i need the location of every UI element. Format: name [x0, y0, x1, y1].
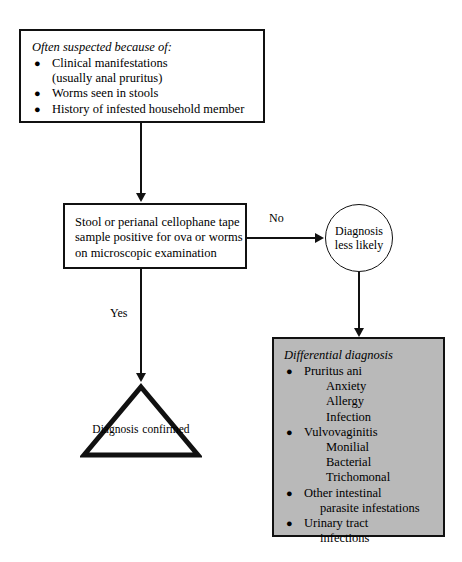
flowchart-canvas: Often suspected because of: ● Clinical m… — [0, 0, 462, 562]
list-item: ● Worms seen in stools — [32, 86, 253, 101]
connector-test-to-triangle — [140, 269, 142, 373]
arrow-head-icon — [315, 233, 324, 243]
list-item-continuation: infections — [304, 531, 437, 546]
connector-test-to-circle — [247, 237, 315, 239]
list-item-label: History of infested household member — [52, 102, 244, 116]
list-subitem: Allergy — [304, 394, 437, 409]
bullet-icon: ● — [286, 516, 293, 531]
triangle-label: Diagnosis confirmed — [80, 419, 202, 437]
diagnosis-confirmed-node: Diagnosis confirmed — [80, 383, 202, 459]
triangle-label-line: confirmed — [142, 423, 189, 435]
arrow-head-icon — [136, 193, 146, 202]
list-item-label: Clinical manifestations — [52, 56, 168, 70]
list-item: ● Vulvovaginitis Monilial Bacterial Tric… — [284, 425, 437, 486]
list-item-label: Other intestinal — [304, 486, 381, 500]
list-item-label: Urinary tract — [304, 516, 368, 530]
bullet-icon: ● — [34, 56, 41, 71]
suspected-because-list: ● Clinical manifestations (usually anal … — [32, 56, 253, 117]
edge-label-yes: Yes — [110, 306, 127, 320]
list-subitem: Anxiety — [304, 379, 437, 394]
list-item-continuation: (usually anal pruritus) — [52, 71, 253, 86]
test-criteria-box: Stool or perianal cellophane tape sample… — [63, 203, 247, 269]
list-item-label: Pruritus ani — [304, 364, 362, 378]
circle-label-line: less likely — [335, 238, 383, 253]
list-subitem: Infection — [304, 410, 437, 425]
bullet-icon: ● — [34, 102, 41, 117]
differential-diagnosis-heading: Differential diagnosis — [284, 348, 437, 363]
list-item: ● Pruritus ani Anxiety Allergy Infection — [284, 364, 437, 425]
circle-label-line: Diagnosis — [335, 224, 383, 239]
arrow-head-icon — [136, 373, 146, 382]
list-item-label: Worms seen in stools — [52, 86, 158, 100]
list-item: ● Other intestinal parasite infestations — [284, 486, 437, 516]
test-criteria-line: Stool or perianal cellophane tape — [75, 215, 237, 230]
bullet-icon: ● — [286, 364, 293, 379]
list-subitem: Bacterial — [304, 455, 437, 470]
list-subitem: Trichomonal — [304, 470, 437, 485]
bullet-icon: ● — [34, 86, 41, 101]
connector-suspect-to-test — [140, 123, 142, 193]
suspected-because-heading: Often suspected because of: — [32, 40, 253, 55]
diagnosis-less-likely-node: Diagnosis less likely — [325, 204, 393, 272]
differential-diagnosis-list: ● Pruritus ani Anxiety Allergy Infection… — [284, 364, 437, 546]
list-item: ● Clinical manifestations (usually anal … — [32, 56, 253, 86]
bullet-icon: ● — [286, 425, 293, 440]
triangle-label-line: Diagnosis — [92, 423, 138, 435]
list-item: ● History of infested household member — [32, 102, 253, 117]
list-subitem: Monilial — [304, 440, 437, 455]
differential-diagnosis-box: Differential diagnosis ● Pruritus ani An… — [272, 337, 445, 537]
list-item-label: Vulvovaginitis — [304, 425, 378, 439]
list-item: ● Urinary tract infections — [284, 516, 437, 546]
edge-label-no: No — [269, 211, 284, 225]
test-criteria-line: on microscopic examination — [75, 246, 237, 261]
arrow-head-icon — [354, 328, 364, 337]
connector-circle-to-differential — [358, 272, 360, 328]
bullet-icon: ● — [286, 486, 293, 501]
test-criteria-line: sample positive for ova or worms — [75, 230, 237, 245]
suspected-because-box: Often suspected because of: ● Clinical m… — [19, 29, 265, 123]
list-item-continuation: parasite infestations — [304, 501, 437, 516]
